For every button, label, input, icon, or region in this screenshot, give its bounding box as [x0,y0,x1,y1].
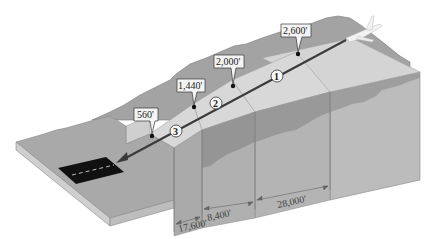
point-2000 [231,84,235,88]
altitude-label: 2,000' [216,56,241,67]
point-1440 [192,105,196,109]
descent-path-diagram: 2,600' 2,000' 1,440' 560' 1 2 3 [0,0,432,239]
altitude-label: 560' [137,109,154,120]
svg-text:2: 2 [213,98,218,109]
svg-text:1: 1 [274,71,279,82]
point-560 [150,134,154,138]
point-2600 [296,52,300,56]
svg-text:3: 3 [173,126,178,137]
altitude-label: 1,440' [178,80,203,91]
altitude-label: 2,600' [283,25,308,36]
segment-3-marker: 3 [170,125,182,137]
segment-1-marker: 1 [271,70,283,82]
segment-2-marker: 2 [210,97,222,109]
